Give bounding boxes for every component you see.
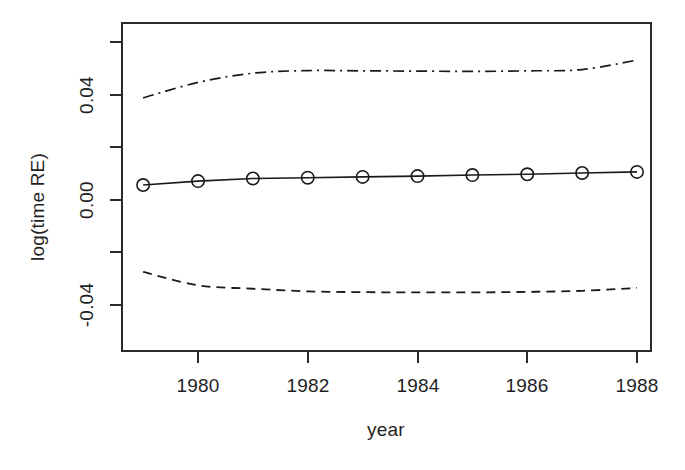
line-chart-plot: 0.04 0.00 -0.04 log(time RE) 1980 1982 1… [0, 0, 685, 470]
y-tick-label-0.00: 0.00 [76, 181, 97, 219]
x-tick-label-1982: 1982 [286, 375, 329, 396]
x-axis-ticks [198, 351, 637, 363]
x-tick-label-1986: 1986 [505, 375, 548, 396]
y-tick-label-0.04: 0.04 [76, 76, 97, 114]
y-axis-tick-labels: 0.04 0.00 -0.04 [76, 76, 97, 327]
y-axis-title: log(time RE) [27, 153, 48, 261]
y-axis-ticks [110, 42, 122, 305]
x-tick-label-1988: 1988 [615, 375, 658, 396]
chart-figure: 0.04 0.00 -0.04 log(time RE) 1980 1982 1… [0, 0, 685, 470]
x-tick-label-1984: 1984 [396, 375, 439, 396]
y-tick-label-neg0.04: -0.04 [76, 283, 97, 328]
series-estimate-markers [137, 166, 643, 192]
series-upper-confidence-bound [143, 60, 637, 98]
x-axis-title: year [367, 419, 405, 440]
series-lower-confidence-bound [143, 272, 637, 293]
x-tick-label-1980: 1980 [176, 375, 219, 396]
x-axis-tick-labels: 1980 1982 1984 1986 1988 [176, 375, 658, 396]
series-estimate-line [143, 172, 637, 185]
